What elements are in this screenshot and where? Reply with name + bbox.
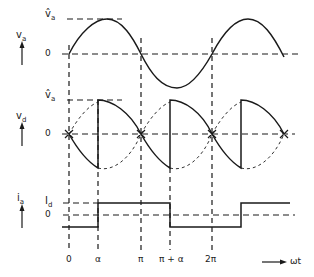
vd-zero-label: 0 <box>45 129 51 138</box>
va-peak-label: v̂a <box>45 9 55 22</box>
va-peak-sub: a <box>51 14 55 22</box>
tick-2pi: 2π <box>205 255 216 264</box>
ia-zero-label: 0 <box>45 210 51 219</box>
vertical-guides <box>69 38 212 250</box>
ia-level-label: Id <box>45 196 52 209</box>
vd-peak-sub: a <box>51 95 55 103</box>
vd-panel <box>62 100 295 169</box>
axis-arrows <box>22 45 282 262</box>
tick-0: 0 <box>66 255 72 264</box>
x-axis-arrow-icon <box>280 260 287 265</box>
va-panel <box>62 19 300 88</box>
waveform-diagram <box>0 0 314 277</box>
ia-panel <box>62 203 295 227</box>
va-axis-label: va <box>16 30 26 43</box>
tick-pi: π <box>138 255 143 264</box>
tick-pi-plus-alpha: π + α <box>159 255 184 264</box>
ia-axis-label: ia <box>17 193 24 206</box>
vd-axis-sub: d <box>22 116 26 124</box>
tick-alpha: α <box>95 255 101 264</box>
ia-axis-sub: a <box>20 198 24 206</box>
va-axis-sub: a <box>22 35 26 43</box>
vd-axis-label: vd <box>16 111 26 124</box>
va-zero-label: 0 <box>45 49 51 58</box>
x-axis-label: ωt <box>290 257 301 266</box>
vd-peak-label: v̂a <box>45 90 55 103</box>
ia-level-sub: d <box>48 201 52 209</box>
